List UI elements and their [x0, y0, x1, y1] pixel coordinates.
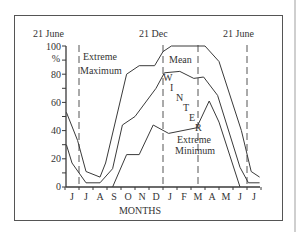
label-extreme-minimum-line2: Minimum: [175, 145, 215, 156]
x-tick-label: O: [124, 191, 131, 202]
x-tick-label: J: [70, 191, 74, 202]
y-tick-100: 100: [46, 41, 61, 52]
x-tick-label: J: [84, 191, 88, 202]
x-tick-label: M: [222, 191, 231, 202]
label-extreme-maximum-line1: Extreme: [83, 51, 117, 62]
x-tick-label: J: [168, 191, 172, 202]
line-chart: 21 June 21 Dec 21 June 100 % 80 60 40 20…: [0, 0, 297, 232]
marker-label-dec: 21 Dec: [139, 28, 168, 39]
winter-letter: R: [195, 122, 202, 133]
x-tick-labels: JJASONDJFMAMJJ: [70, 191, 256, 202]
y-axis-unit: %: [52, 53, 60, 64]
y-tick-80: 80: [51, 69, 61, 80]
label-extreme-minimum-line1: Extreme: [177, 134, 211, 145]
x-tick-label: M: [194, 191, 203, 202]
x-tick-label: F: [181, 191, 187, 202]
label-extreme-maximum-line2: Maximum: [80, 65, 122, 76]
x-axis-title: MONTHS: [119, 205, 161, 216]
x-tick-label: A: [208, 191, 216, 202]
marker-label-june-start: 21 June: [33, 28, 64, 39]
winter-letter: I: [170, 82, 173, 93]
label-winter: WINTER: [163, 72, 202, 133]
y-tick-0: 0: [56, 181, 61, 192]
y-tick-40: 40: [51, 125, 61, 136]
x-tick-label: J: [252, 191, 256, 202]
x-tick-label: S: [111, 191, 117, 202]
x-tick-label: A: [96, 191, 104, 202]
x-tick-label: J: [238, 191, 242, 202]
x-tick-label: N: [138, 191, 145, 202]
x-tick-label: D: [152, 191, 159, 202]
label-mean: Mean: [169, 54, 192, 65]
marker-label-june-end: 21 June: [223, 28, 254, 39]
y-tick-60: 60: [51, 97, 61, 108]
y-tick-20: 20: [51, 153, 61, 164]
